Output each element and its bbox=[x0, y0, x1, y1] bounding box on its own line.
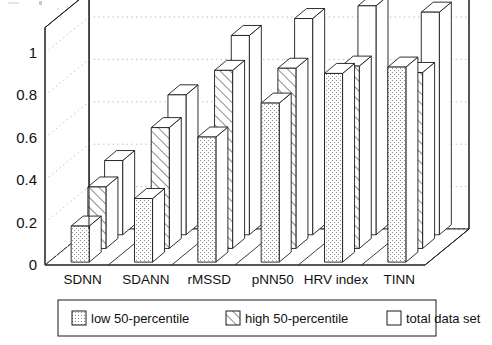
x-tick-label: rMSSD bbox=[188, 272, 232, 287]
bar-front-face bbox=[71, 226, 89, 262]
legend-item-2: high 50-percentile bbox=[226, 311, 348, 326]
y-tick-label: 1 bbox=[29, 44, 37, 61]
y-tick-label: 0.6 bbox=[16, 129, 37, 146]
x-tick-label: SDANN bbox=[122, 272, 169, 287]
y-tick-label: 0.8 bbox=[16, 86, 37, 103]
bar-side-face bbox=[343, 63, 355, 262]
bar-front-face bbox=[261, 103, 279, 262]
legend-label: high 50-percentile bbox=[245, 311, 348, 326]
bar-side-face bbox=[359, 56, 371, 248]
scan-speck bbox=[39, 1, 42, 5]
bar bbox=[388, 57, 418, 262]
chart-legend: low 50-percentilehigh 50-percentiletotal… bbox=[58, 300, 481, 336]
bar-side-face bbox=[249, 25, 261, 234]
bar-front-face bbox=[198, 137, 216, 262]
legend-label: total data set bbox=[406, 311, 481, 326]
plot-area bbox=[45, 0, 469, 265]
bar bbox=[261, 93, 291, 262]
bar-side-face bbox=[216, 127, 228, 262]
bar-side-face bbox=[313, 9, 325, 235]
bar-side-face bbox=[439, 2, 451, 235]
legend-item-3: total data set bbox=[387, 311, 481, 326]
x-tick-label: HRV index bbox=[304, 272, 369, 287]
bar bbox=[198, 127, 228, 262]
bar-side-face bbox=[106, 177, 118, 248]
x-tick-label: TINN bbox=[384, 272, 416, 287]
bar-front-face bbox=[135, 199, 153, 263]
scan-speck bbox=[57, 8, 59, 10]
bar bbox=[71, 216, 101, 262]
scan-speck bbox=[8, 2, 19, 4]
bar bbox=[325, 63, 355, 262]
bar-side-face bbox=[376, 0, 388, 235]
legend-label: low 50-percentile bbox=[91, 311, 189, 326]
bar-side-face bbox=[123, 151, 135, 235]
y-tick-label: 0 bbox=[29, 256, 37, 273]
x-tick-label: SDNN bbox=[64, 272, 102, 287]
bar-side-face bbox=[279, 93, 291, 262]
chart-figure: 00.20.40.60.81SDNNSDANNrMSSDpNN50HRV ind… bbox=[0, 0, 492, 345]
legend-swatch-blank-swatch bbox=[387, 311, 401, 325]
bar bbox=[135, 189, 165, 263]
y-tick-label: 0.2 bbox=[16, 214, 37, 231]
bar-side-face bbox=[153, 189, 165, 263]
legend-swatch-hatch-swatch bbox=[226, 311, 240, 325]
x-tick-label: pNN50 bbox=[252, 272, 294, 287]
bar-front-face bbox=[388, 67, 406, 262]
y-tick-label: 0.4 bbox=[16, 171, 37, 188]
legend-swatch-dotted-swatch bbox=[72, 311, 86, 325]
bar-side-face bbox=[186, 85, 198, 235]
bar-side-face bbox=[169, 118, 181, 249]
bar-side-face bbox=[296, 58, 308, 248]
bar-side-face bbox=[406, 57, 418, 262]
bar-chart-3d: 00.20.40.60.81SDNNSDANNrMSSDpNN50HRV ind… bbox=[0, 0, 492, 345]
bar-front-face bbox=[325, 73, 343, 262]
bar-side-face bbox=[233, 60, 245, 248]
bar-side-face bbox=[423, 62, 435, 248]
